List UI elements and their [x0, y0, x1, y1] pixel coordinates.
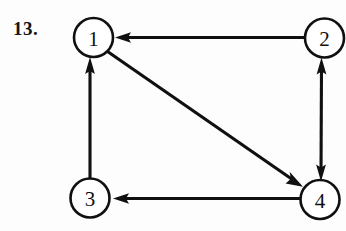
node-4[interactable]: 4: [301, 180, 340, 219]
edge-2-to-4: [316, 58, 326, 182]
figure-canvas: 13. 1: [0, 0, 346, 231]
edge-1-to-4-arrowhead: [286, 172, 303, 187]
node-2-label: 2: [319, 27, 330, 51]
edge-2-to-1: [115, 32, 304, 42]
node-2[interactable]: 2: [305, 19, 344, 58]
edge-4-to-3: [113, 193, 300, 203]
edge-1-to-4-line: [108, 52, 297, 183]
node-3-label: 3: [85, 187, 96, 211]
directed-graph-diagram: 1 2 3 4: [0, 0, 346, 231]
node-3[interactable]: 3: [71, 179, 110, 218]
edge-1-to-4: [108, 52, 304, 187]
edge-3-to-1: [85, 57, 95, 179]
node-1-label: 1: [88, 27, 99, 51]
node-4-label: 4: [315, 189, 326, 213]
edge-2-to-4-line: [321, 65, 322, 174]
node-1[interactable]: 1: [74, 18, 113, 57]
